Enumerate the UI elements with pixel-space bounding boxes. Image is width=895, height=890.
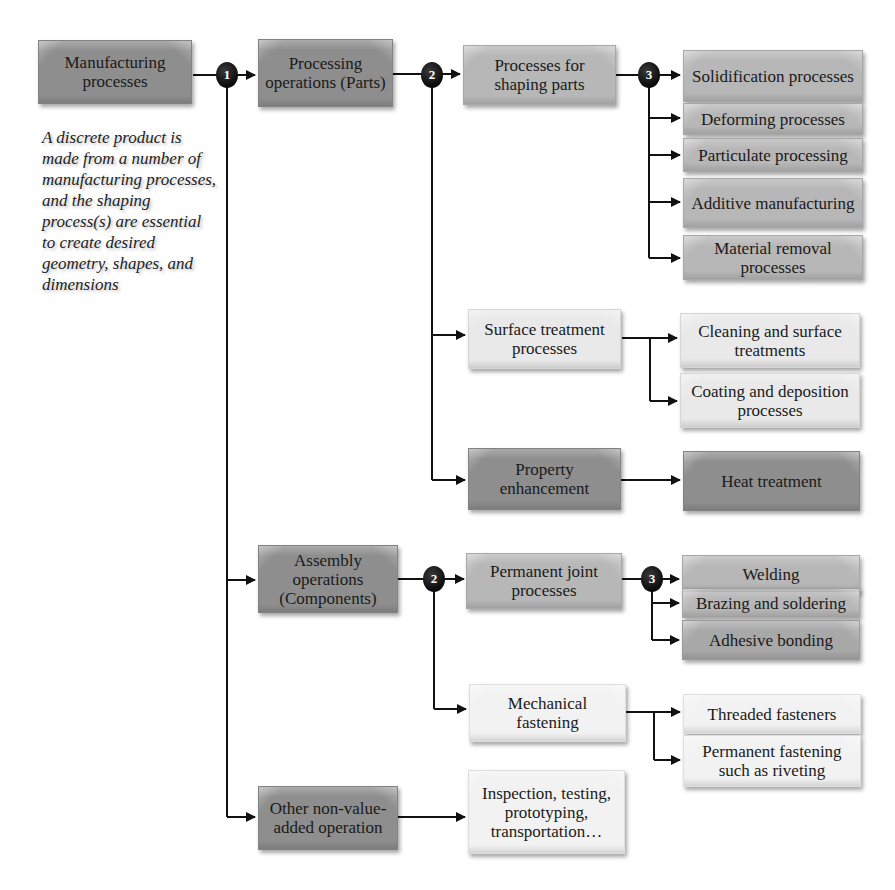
box-label: Assembly operations (Components) [265,551,391,608]
box-heat-treatment: Heat treatment [683,451,860,511]
box-label: Permanent fastening such as riveting [690,742,854,780]
box-inspection-testing: Inspection, testing, prototyping, transp… [468,770,625,854]
box-solidification: Solidification processes [683,50,863,102]
box-permanent-joint: Permanent joint processes [466,553,622,609]
box-particulate: Particulate processing [683,138,863,172]
step-badge-1: 1 [216,62,238,88]
box-label: Deforming processes [701,110,845,129]
box-property-enhancement: Property enhancement [468,448,621,510]
step-badge-2-processing: 2 [421,62,443,88]
step-badge-3-permanent: 3 [641,566,663,592]
box-label: Cleaning and surface treatments [687,322,853,360]
box-label: Property enhancement [475,460,614,498]
manufacturing-process-diagram: Manufacturing processes A discrete produ… [0,0,895,890]
box-label: Material removal processes [690,239,856,277]
box-assembly-operations: Assembly operations (Components) [258,545,398,613]
box-brazing: Brazing and soldering [682,588,860,618]
box-label: Additive manufacturing [692,194,855,213]
box-mechanical-fastening: Mechanical fastening [469,684,626,742]
box-deforming: Deforming processes [683,103,863,135]
box-label: Manufacturing processes [45,53,185,91]
box-permanent-fastening: Permanent fastening such as riveting [683,735,861,787]
box-label: Particulate processing [698,146,848,165]
box-material-removal: Material removal processes [683,235,863,280]
box-shaping-processes: Processes for shaping parts [463,45,616,105]
box-label: Processing operations (Parts) [265,54,386,92]
box-label: Surface treatment processes [475,320,614,358]
box-label: Coating and deposition processes [687,382,853,420]
box-cleaning: Cleaning and surface treatments [680,313,860,368]
box-label: Heat treatment [721,472,822,491]
box-label: Other non-value-added operation [265,799,391,837]
box-label: Adhesive bonding [709,631,833,650]
box-surface-treatment: Surface treatment processes [468,309,621,369]
box-additive: Additive manufacturing [683,178,863,228]
box-threaded-fasteners: Threaded fasteners [683,694,861,734]
description-note: A discrete product is made from a number… [42,127,217,295]
box-coating: Coating and deposition processes [680,373,860,428]
step-badge-2-assembly: 2 [423,566,445,592]
box-manufacturing-processes: Manufacturing processes [38,40,192,104]
box-label: Brazing and soldering [696,594,846,613]
box-other-operations: Other non-value-added operation [258,786,398,850]
step-badge-3-shaping: 3 [638,62,660,88]
box-label: Inspection, testing, prototyping, transp… [475,784,618,841]
box-label: Solidification processes [692,67,854,86]
box-label: Permanent joint processes [473,562,615,600]
box-adhesive: Adhesive bonding [682,620,860,660]
box-label: Threaded fasteners [708,705,837,724]
box-label: Welding [742,565,799,584]
box-processing-operations: Processing operations (Parts) [258,39,393,107]
box-label: Mechanical fastening [476,694,619,732]
box-label: Processes for shaping parts [470,56,609,94]
